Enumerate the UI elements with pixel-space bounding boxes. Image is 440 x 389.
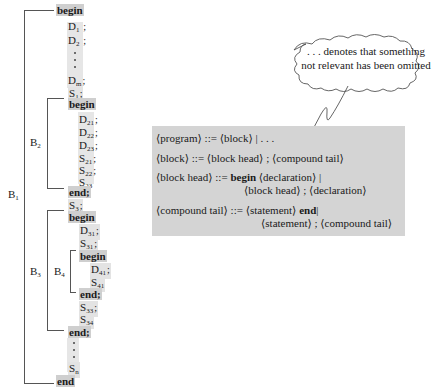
callout-cloud — [280, 22, 440, 142]
b3-begin-keyword: begin — [68, 211, 96, 223]
b2-bracket-top — [47, 98, 64, 99]
rule-compound-tail-alt: ⟨statement⟩ ; ⟨compound tail⟩ — [261, 217, 392, 230]
b3-bracket-top — [47, 210, 64, 211]
b3-end-keyword: end; — [68, 326, 91, 338]
b4-bracket-top — [70, 250, 76, 251]
grammar-box: ⟨program⟩ ::= ⟨block⟩ | . . . ⟨block⟩ ::… — [152, 126, 405, 236]
b4-bracket-bottom — [70, 292, 76, 293]
b3-bracket-bottom — [47, 330, 64, 331]
rule-block: ⟨block⟩ ::= ⟨block head⟩ ; ⟨compound tai… — [156, 152, 344, 165]
rule-program: ⟨program⟩ ::= ⟨block⟩ | . . . — [156, 132, 274, 145]
b2-bracket-vertical — [47, 98, 48, 189]
b4-bracket-vertical — [70, 250, 71, 293]
rule-compound-tail: ⟨compound tail⟩ ::= ⟨statement⟩ end| — [156, 204, 318, 217]
b2-begin-keyword: begin — [68, 98, 96, 110]
b2-bracket-bottom — [47, 188, 64, 189]
b1-bracket-bottom — [24, 383, 54, 384]
rule-block-head: ⟨block head⟩ ::= begin ⟨declaration⟩ | — [156, 171, 321, 184]
b3-bracket-vertical — [47, 210, 48, 331]
b1-label: B1 — [8, 188, 19, 202]
decl-d2: D2 ; — [68, 34, 86, 50]
b1-bracket-vertical — [24, 10, 25, 384]
b4-end-keyword: end; — [79, 288, 102, 300]
b3-label: B3 — [30, 265, 41, 279]
b2-label: B2 — [30, 136, 41, 150]
rule-block-head-alt: ⟨block head⟩ ; ⟨declaration⟩ — [244, 184, 367, 197]
callout-line-1: . . . denotes that something — [296, 44, 436, 58]
b4-begin-keyword: begin — [79, 250, 107, 262]
ellipsis-vertical-tail — [73, 342, 74, 363]
b1-end-keyword: end — [56, 375, 75, 387]
callout-line-2: not relevant has been omitted — [296, 58, 436, 72]
callout-text: . . . denotes that something not relevan… — [296, 44, 436, 72]
b1-begin-keyword: begin — [56, 4, 84, 16]
b4-label: B4 — [54, 265, 65, 279]
b1-bracket-top — [24, 10, 54, 11]
ellipsis-vertical — [74, 52, 75, 73]
b2-end-keyword: end; — [68, 186, 91, 198]
